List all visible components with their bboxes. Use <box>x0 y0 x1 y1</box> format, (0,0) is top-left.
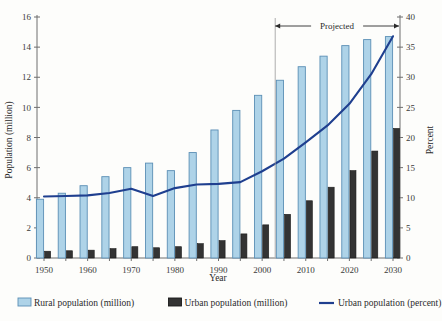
right-tick-label: 15 <box>406 163 416 173</box>
urban-bar <box>285 214 291 258</box>
projected-label: Projected <box>320 21 354 31</box>
rural-bar <box>145 163 152 258</box>
x-tick-label: 2020 <box>340 265 359 275</box>
right-tick-label: 30 <box>406 72 416 82</box>
rural-bar <box>102 177 109 258</box>
rural-bar <box>276 80 283 258</box>
x-tick-label: 1970 <box>122 265 141 275</box>
legend-swatch-bar-icon <box>169 298 182 306</box>
y-axis-title: Population (million) <box>4 101 15 178</box>
legend-item-label: Urban population (million) <box>185 298 288 309</box>
left-tick-label: 12 <box>22 72 31 82</box>
left-tick-label: 2 <box>27 223 32 233</box>
legend-item-label: Urban population (percent) <box>338 298 441 309</box>
rural-bar <box>189 153 196 258</box>
y2-axis-title: Percent <box>425 125 435 154</box>
urban-bar <box>110 249 116 258</box>
urban-bar <box>394 128 400 258</box>
urban-bar <box>241 234 247 258</box>
chart-legend: Rural population (million)Urban populati… <box>18 298 441 309</box>
left-tick-label: 6 <box>27 163 32 173</box>
x-tick-label: 2030 <box>384 265 403 275</box>
rural-bar <box>36 199 43 258</box>
rural-bar <box>320 56 327 258</box>
urban-bar <box>66 251 72 258</box>
legend-item-label: Rural population (million) <box>34 298 134 309</box>
left-tick-label: 14 <box>22 42 32 52</box>
chart-figure: 0246810121416 0510152025303540 195019601… <box>0 0 442 321</box>
population-combo-chart: 0246810121416 0510152025303540 195019601… <box>0 0 442 321</box>
x-tick-label: 2000 <box>253 265 272 275</box>
rural-bar <box>342 46 349 258</box>
urban-bar <box>154 248 160 258</box>
urban-bar <box>88 250 94 258</box>
left-tick-label: 8 <box>27 133 32 143</box>
urban-bar <box>328 187 334 258</box>
right-tick-label: 5 <box>406 223 411 233</box>
rural-bar <box>124 168 131 258</box>
urban-bar <box>306 201 312 258</box>
rural-bar <box>58 193 65 258</box>
x-tick-label: 1950 <box>35 265 54 275</box>
urban-bar <box>132 247 138 258</box>
urban-bar <box>45 251 51 258</box>
left-tick-label: 0 <box>27 253 32 263</box>
right-tick-label: 0 <box>406 253 411 263</box>
left-tick-label: 10 <box>22 103 32 113</box>
left-tick-label: 16 <box>22 12 32 22</box>
urban-bar <box>197 244 203 258</box>
right-tick-label: 20 <box>406 133 416 143</box>
rural-bar <box>385 37 392 258</box>
rural-bar <box>211 130 218 258</box>
rural-bar <box>298 67 305 258</box>
x-axis-title: Year <box>209 273 227 283</box>
rural-bar <box>364 40 371 258</box>
right-tick-label: 25 <box>406 103 416 113</box>
urban-bar <box>350 171 356 258</box>
rural-bar <box>255 95 262 258</box>
right-tick-label: 40 <box>406 12 416 22</box>
x-tick-label: 1980 <box>166 265 185 275</box>
rural-bar <box>233 110 240 258</box>
x-tick-label: 2010 <box>297 265 316 275</box>
right-tick-label: 10 <box>406 193 416 203</box>
right-tick-label: 35 <box>406 42 416 52</box>
rural-bar <box>167 171 174 258</box>
urban-bar <box>175 247 181 258</box>
urban-bar <box>219 241 225 258</box>
x-tick-label: 1960 <box>79 265 98 275</box>
urban-bar <box>372 151 378 258</box>
urban-bar <box>263 225 269 258</box>
left-tick-label: 4 <box>27 193 32 203</box>
legend-swatch-bar-icon <box>18 298 31 306</box>
